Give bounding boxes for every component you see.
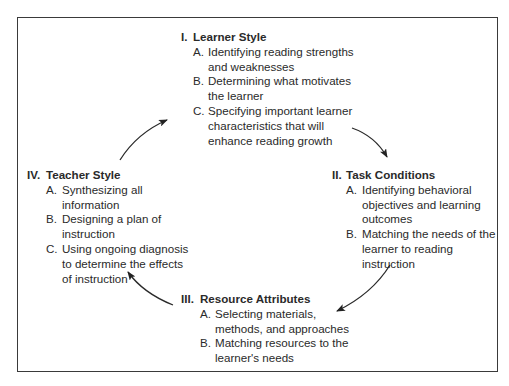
item-letter: C. — [46, 242, 62, 257]
item-text: Selecting materials, methods, and approa… — [215, 307, 360, 337]
item-text: Determining what motivates the learner — [208, 74, 356, 104]
item-letter: B. — [46, 212, 62, 227]
stage-title: Teacher Style — [46, 168, 121, 183]
stage-items: A. Synthesizing all information B. Desig… — [46, 183, 194, 287]
item-letter: C. — [193, 104, 208, 119]
item-text: Using ongoing diagnosis to determine the… — [62, 242, 194, 286]
stage-heading: IV. Teacher Style — [27, 168, 194, 183]
item-letter: A. — [46, 183, 62, 198]
stage-resource-attributes: III. Resource Attributes A. Selecting ma… — [181, 292, 360, 366]
stage-task-conditions: II. Task Conditions A. Identifying behav… — [332, 168, 498, 272]
stage-teacher-style: IV. Teacher Style A. Synthesizing all in… — [27, 168, 194, 286]
stage-item: C. Specifying important learner characte… — [193, 104, 356, 148]
stage-numeral: III. — [181, 292, 200, 307]
stage-heading: I. Learner Style — [181, 30, 356, 45]
stage-item: A. Synthesizing all information — [46, 183, 194, 213]
stage-heading: II. Task Conditions — [332, 168, 498, 183]
item-text: Identifying reading strengths and weakne… — [208, 45, 356, 75]
stage-item: B. Determining what motivates the learne… — [193, 74, 356, 104]
stage-items: A. Selecting materials, methods, and app… — [200, 307, 360, 366]
stage-item: A. Selecting materials, methods, and app… — [200, 307, 360, 337]
stage-item: A. Identifying reading strengths and wea… — [193, 45, 356, 75]
stage-items: A. Identifying behavioral objectives and… — [346, 183, 498, 272]
stage-item: C. Using ongoing diagnosis to determine … — [46, 242, 194, 286]
item-letter: A. — [200, 307, 215, 322]
stage-title: Learner Style — [193, 30, 266, 45]
item-text: Matching the needs of the learner to rea… — [362, 227, 498, 271]
stage-title: Task Conditions — [346, 168, 435, 183]
stage-heading: III. Resource Attributes — [181, 292, 360, 307]
stage-numeral: I. — [181, 30, 193, 45]
item-text: Matching resources to the learner's need… — [215, 336, 360, 366]
item-letter: B. — [346, 227, 362, 242]
stage-item: B. Matching the needs of the learner to … — [346, 227, 498, 271]
stage-title: Resource Attributes — [200, 292, 310, 307]
item-text: Designing a plan of instruction — [62, 212, 194, 242]
item-letter: A. — [346, 183, 362, 198]
stage-numeral: IV. — [27, 168, 46, 183]
stage-item: B. Matching resources to the learner's n… — [200, 336, 360, 366]
item-text: Identifying behavioral objectives and le… — [362, 183, 498, 227]
stage-item: A. Identifying behavioral objectives and… — [346, 183, 498, 227]
stage-items: A. Identifying reading strengths and wea… — [193, 45, 356, 149]
stage-item: B. Designing a plan of instruction — [46, 212, 194, 242]
stage-learner-style: I. Learner Style A. Identifying reading … — [181, 30, 356, 148]
item-letter: B. — [200, 336, 215, 351]
stage-numeral: II. — [332, 168, 346, 183]
item-letter: B. — [193, 74, 208, 89]
item-letter: A. — [193, 45, 208, 60]
item-text: Synthesizing all information — [62, 183, 194, 213]
item-text: Specifying important learner characteris… — [208, 104, 356, 148]
